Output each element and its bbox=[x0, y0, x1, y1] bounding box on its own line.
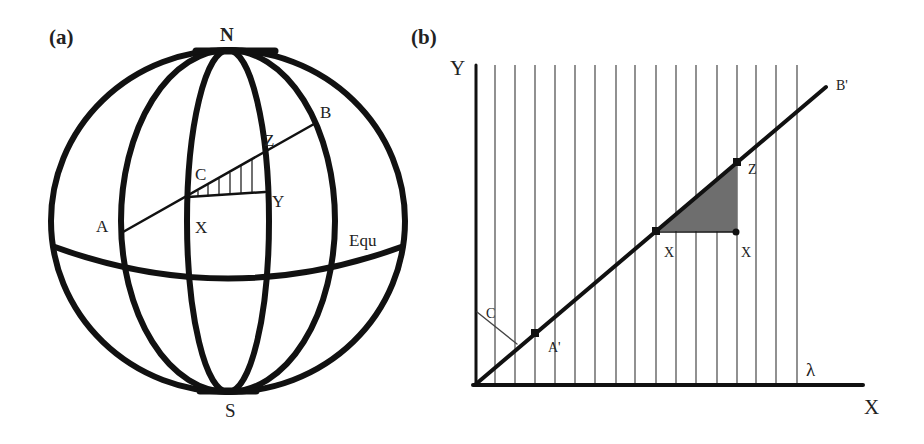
panel-a-label: (a) bbox=[49, 25, 74, 49]
panel-b-label: (b) bbox=[411, 25, 437, 49]
panel-b-grid bbox=[495, 65, 797, 384]
label-b-prime: B' bbox=[836, 78, 848, 93]
label-north: N bbox=[220, 24, 234, 45]
label-y-axis: Y bbox=[450, 56, 465, 80]
point-x-right bbox=[733, 229, 740, 236]
label-a-prime: A' bbox=[548, 340, 561, 355]
label-a: A bbox=[96, 217, 109, 236]
label-equator: Equ bbox=[349, 231, 377, 250]
label-c: C bbox=[486, 306, 495, 321]
label-z: Z bbox=[748, 162, 757, 177]
label-lambda: λ bbox=[806, 359, 816, 380]
segment-c-y bbox=[188, 192, 265, 197]
label-x-left: X bbox=[664, 245, 674, 260]
label-x-axis: X bbox=[864, 395, 879, 419]
point-a-prime bbox=[531, 329, 539, 337]
label-c: C bbox=[195, 165, 206, 184]
panel-b-labels: (b) Y X λ B' A' C X X Z bbox=[411, 25, 879, 419]
label-x-right: X bbox=[741, 245, 751, 260]
label-x: X bbox=[195, 218, 207, 237]
figure-canvas: (a) N S A B C X Y Z Equ bbox=[0, 0, 924, 444]
line-a-prime-b-prime bbox=[476, 87, 826, 384]
line-a-b bbox=[123, 124, 314, 232]
equator-line bbox=[55, 247, 401, 279]
point-z bbox=[733, 158, 741, 166]
label-south: S bbox=[225, 400, 236, 421]
label-y: Y bbox=[272, 192, 284, 211]
label-b: B bbox=[320, 103, 331, 122]
point-x-left bbox=[652, 227, 660, 235]
label-z: Z bbox=[264, 131, 274, 150]
meridian-outer bbox=[121, 50, 335, 392]
line-c bbox=[477, 312, 517, 344]
